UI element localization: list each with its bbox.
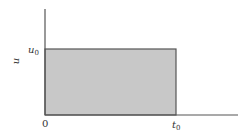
pulse-diagram [0, 0, 251, 140]
y-axis-label: u [11, 58, 21, 64]
u0-label: u0 [28, 45, 39, 57]
pulse-area [45, 49, 176, 115]
origin-label: 0 [42, 119, 48, 129]
t0-label: t0 [172, 120, 181, 132]
